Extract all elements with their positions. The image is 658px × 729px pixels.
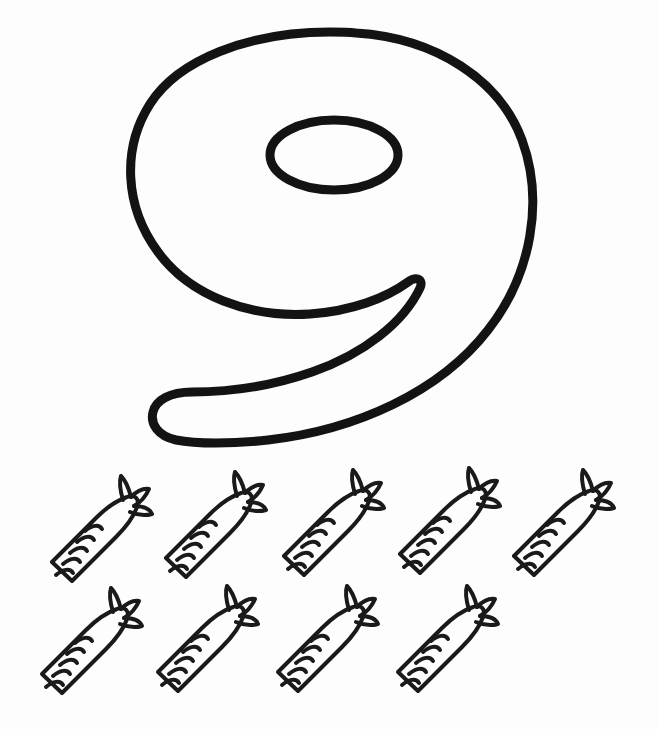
- counting-worksheet: 9 9: [0, 0, 658, 729]
- carrot-icon: [270, 580, 382, 698]
- carrot-icon: [506, 464, 618, 582]
- carrot-icon: [44, 470, 156, 588]
- list-item: [34, 582, 146, 700]
- carrot-icon: [390, 580, 502, 698]
- list-item: [390, 580, 502, 698]
- list-item: [44, 470, 156, 588]
- carrot-icon: [34, 582, 146, 700]
- numeral-nine-outline: [0, 0, 658, 465]
- list-item: [158, 466, 270, 584]
- object-group-carrots: 9: [0, 462, 658, 729]
- numeral-illustration: 9: [0, 0, 658, 465]
- carrot-icon: [158, 466, 270, 584]
- list-item: [392, 462, 504, 580]
- list-item: [276, 464, 388, 582]
- list-item: [150, 580, 262, 698]
- list-item: [506, 464, 618, 582]
- carrot-icon: [276, 464, 388, 582]
- carrot-icon: [392, 462, 504, 580]
- carrot-icon: [150, 580, 262, 698]
- list-item: [270, 580, 382, 698]
